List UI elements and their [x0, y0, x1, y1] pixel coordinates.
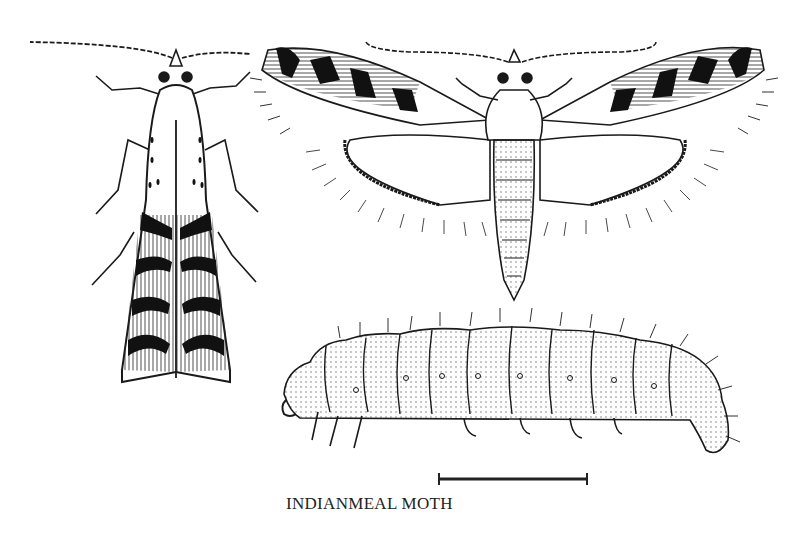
larva	[282, 308, 740, 452]
moth-spread	[250, 42, 778, 300]
illustration	[0, 0, 794, 544]
scale-bar	[439, 473, 587, 485]
figure-title: INDIANMEAL MOTH	[286, 494, 453, 514]
moth-resting	[30, 42, 258, 382]
